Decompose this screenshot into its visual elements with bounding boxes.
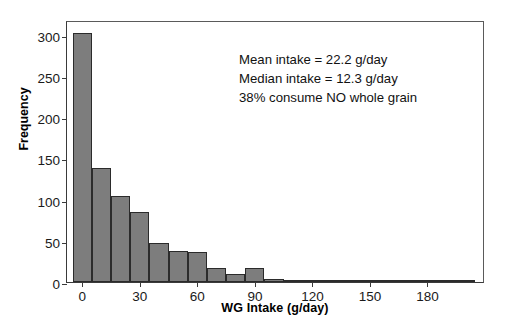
- y-tick-label: 100: [37, 194, 60, 209]
- y-tick-label: 50: [45, 235, 60, 250]
- histogram-bar: [207, 268, 226, 282]
- y-tick-label: 200: [37, 112, 60, 127]
- histogram-bar: [226, 274, 245, 282]
- histogram-figure: 050100150200250300 0306090120150180 WG I…: [0, 0, 506, 321]
- histogram-bar: [111, 196, 130, 283]
- annotation-line-mean: Mean intake = 22.2 g/day: [239, 50, 417, 69]
- y-tick-mark: [62, 160, 67, 161]
- histogram-bar: [245, 268, 264, 282]
- y-tick-label: 250: [37, 71, 60, 86]
- x-tick-mark: [82, 282, 83, 287]
- y-tick-mark: [62, 284, 67, 285]
- histogram-bar: [73, 33, 92, 282]
- x-tick-mark: [370, 282, 371, 287]
- x-tick-mark: [140, 282, 141, 287]
- y-tick-mark: [62, 78, 67, 79]
- annotation-block: Mean intake = 22.2 g/day Median intake =…: [239, 50, 417, 107]
- histogram-bar: [399, 280, 418, 282]
- y-tick-mark: [62, 119, 67, 120]
- histogram-bar: [437, 280, 456, 282]
- histogram-bar: [380, 280, 399, 282]
- histogram-bar: [341, 280, 360, 282]
- y-tick-mark: [62, 202, 67, 203]
- y-tick-label: 0: [52, 277, 60, 292]
- histogram-bar: [264, 279, 283, 282]
- histogram-bar: [130, 212, 149, 282]
- histogram-bar: [149, 243, 168, 282]
- histogram-bar: [169, 251, 188, 282]
- x-tick-mark: [197, 282, 198, 287]
- x-tick-mark: [255, 282, 256, 287]
- y-axis-title: Frequency: [17, 59, 31, 179]
- x-axis-title: WG Intake (g/day): [66, 301, 484, 315]
- y-tick-label: 300: [37, 29, 60, 44]
- histogram-bar: [92, 168, 111, 282]
- annotation-line-nowholegrain: 38% consume NO whole grain: [239, 88, 417, 107]
- histogram-bar: [188, 252, 207, 282]
- histogram-bar: [322, 280, 341, 282]
- x-tick-mark: [312, 282, 313, 287]
- histogram-bar: [284, 280, 303, 282]
- y-tick-mark: [62, 243, 67, 244]
- y-tick-mark: [62, 37, 67, 38]
- annotation-line-median: Median intake = 12.3 g/day: [239, 69, 417, 88]
- histogram-bar: [456, 280, 475, 282]
- y-tick-label: 150: [37, 153, 60, 168]
- x-tick-mark: [427, 282, 428, 287]
